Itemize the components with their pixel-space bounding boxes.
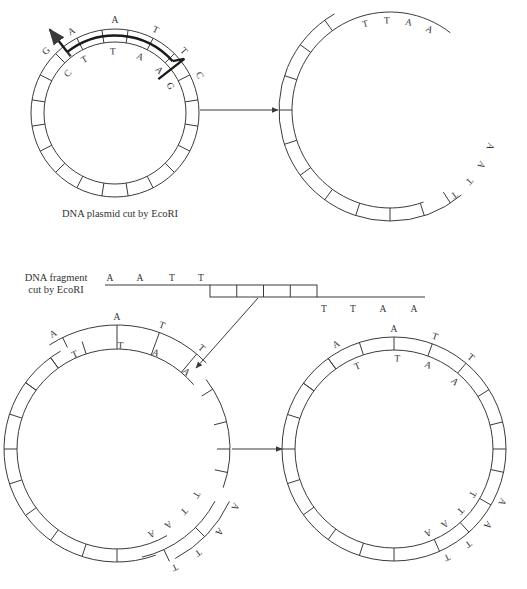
sticky-end-top: A bbox=[424, 23, 435, 35]
base-pair-divider bbox=[328, 529, 336, 540]
base-pair-divider bbox=[40, 75, 52, 81]
outer-nucleotide: G bbox=[40, 45, 52, 57]
top-outer-letter: A bbox=[114, 312, 121, 322]
bottom-inner-letter: T bbox=[191, 490, 203, 500]
fragment-top-letter: A bbox=[137, 273, 144, 283]
top-inner-letter: A bbox=[423, 359, 433, 371]
base-pair-divider bbox=[63, 338, 68, 348]
base-pair-divider bbox=[51, 358, 59, 369]
inner-nucleotide: T bbox=[79, 54, 89, 66]
base-pair-divider bbox=[195, 527, 204, 536]
bottom-outer-letter: A bbox=[496, 497, 508, 508]
top-inner-letter: A bbox=[151, 347, 161, 359]
base-pair-divider bbox=[32, 124, 45, 126]
base-pair-divider bbox=[32, 100, 45, 102]
base-pair-divider bbox=[178, 75, 190, 81]
base-pair-divider bbox=[428, 344, 432, 356]
fragment-top-letter: A bbox=[107, 273, 114, 283]
sticky-end-bottom: A bbox=[484, 142, 496, 152]
outer-nucleotide: A bbox=[66, 25, 77, 37]
base-pair-divider bbox=[300, 168, 311, 176]
base-pair-divider bbox=[214, 422, 227, 425]
base-pair-divider bbox=[215, 470, 228, 473]
fragment-bottom-letter: A bbox=[380, 304, 387, 314]
arrow-fragment-to-plasmid-icon bbox=[196, 298, 258, 368]
base-pair-divider bbox=[359, 543, 363, 555]
inner-nucleotide: C bbox=[62, 68, 74, 79]
inner-strand bbox=[44, 42, 186, 184]
inner-nucleotide: T bbox=[110, 46, 116, 56]
bottom-inner-letter: A bbox=[423, 527, 433, 539]
base-pair-divider bbox=[156, 332, 160, 342]
top-inner-letter: T bbox=[352, 360, 362, 372]
base-pair-divider bbox=[164, 550, 169, 562]
outer-strand-bottom bbox=[390, 195, 461, 221]
base-pair-divider bbox=[185, 124, 198, 126]
base-pair-divider bbox=[82, 544, 86, 556]
bottom-outer-letter: A bbox=[229, 501, 241, 512]
base-pair-divider bbox=[420, 203, 424, 215]
base-pair-divider bbox=[10, 414, 22, 418]
bottom-inner-letter: T bbox=[178, 506, 189, 517]
base-pair-divider bbox=[26, 508, 37, 516]
base-pair-divider bbox=[284, 140, 296, 144]
inner-nucleotide: A bbox=[135, 51, 145, 63]
sticky-end-top: T bbox=[384, 15, 390, 25]
fragment-bottom-letter: T bbox=[350, 304, 356, 314]
sticky-end-top: A bbox=[404, 17, 413, 28]
base-pair-divider bbox=[178, 145, 190, 151]
base-pair-divider bbox=[443, 192, 450, 203]
base-pair-divider bbox=[287, 480, 299, 484]
base-pair-divider bbox=[126, 183, 128, 196]
base-pair-divider bbox=[460, 523, 469, 533]
base-pair-divider bbox=[359, 342, 363, 354]
base-pair-divider bbox=[77, 176, 83, 188]
top-inner-letter: A bbox=[449, 376, 461, 388]
outer-nucleotide: A bbox=[112, 15, 119, 25]
bottom-outer-letter: A bbox=[213, 526, 225, 538]
outer-nucleotide: T bbox=[178, 45, 189, 56]
base-pair-divider bbox=[185, 100, 198, 102]
base-pair-divider bbox=[147, 176, 153, 188]
base-pair-divider bbox=[10, 480, 22, 484]
base-pair-divider bbox=[51, 530, 59, 541]
top-outer-letter: A bbox=[391, 324, 398, 334]
base-pair-divider bbox=[190, 354, 197, 362]
bottom-inner-letter: A bbox=[439, 518, 450, 530]
base-pair-divider bbox=[490, 422, 503, 425]
base-pair-divider bbox=[82, 342, 86, 354]
caption-plasmid-cut: DNA plasmid cut by EcoRI bbox=[62, 208, 178, 219]
bottom-outer-letter: T bbox=[463, 538, 474, 550]
base-pair-divider bbox=[102, 183, 104, 196]
base-pair-divider bbox=[287, 414, 299, 418]
base-pair-divider bbox=[40, 145, 52, 151]
top-inner-letter: T bbox=[70, 348, 80, 360]
outer-nucleotide: T bbox=[151, 24, 161, 36]
inner-strand bbox=[292, 12, 450, 208]
bottom-inner-letter: A bbox=[146, 528, 156, 540]
fragment-bottom-letter: T bbox=[321, 304, 327, 314]
base-pair-divider bbox=[56, 163, 65, 172]
fragment-top-letter: T bbox=[198, 273, 204, 283]
bottom-inner-letter: A bbox=[163, 519, 174, 531]
sticky-end-bottom: A bbox=[475, 159, 487, 170]
base-pair-divider bbox=[480, 499, 491, 506]
top-inner-letter: A bbox=[180, 366, 192, 378]
base-pair-divider bbox=[434, 539, 439, 551]
plasmid-intact: GAATTCCTTAAG bbox=[31, 15, 206, 197]
bottom-outer-letter: T bbox=[170, 562, 180, 574]
base-pair-divider bbox=[284, 76, 296, 80]
plasmid-cut-open: TTAATTAA bbox=[279, 12, 496, 221]
base-pair-divider bbox=[325, 20, 333, 31]
base-pair-divider bbox=[303, 383, 314, 391]
bottom-outer-letter: T bbox=[442, 552, 452, 564]
outer-strand bbox=[279, 14, 390, 221]
inner-strand bbox=[295, 350, 493, 548]
bottom-inner-letter: T bbox=[467, 489, 479, 499]
outer-strand bbox=[282, 337, 506, 561]
plasmid-with-fragment-inserting: AATTTTAAAATTTTAA bbox=[4, 312, 241, 573]
inner-strand bbox=[17, 349, 194, 549]
base-pair-divider bbox=[202, 389, 213, 396]
dna-fragment: AATTTTAA bbox=[105, 273, 425, 314]
top-inner-letter: T bbox=[118, 340, 124, 350]
